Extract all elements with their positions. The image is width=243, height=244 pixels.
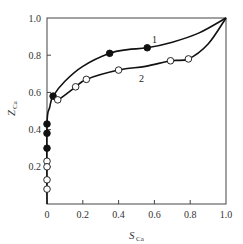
open-marker	[44, 177, 51, 184]
plot-curves	[47, 18, 226, 204]
open-marker	[83, 76, 90, 83]
curve-label-1: 1	[152, 34, 157, 45]
x-tick-label: 0.8	[184, 209, 197, 220]
curve-label-2: 2	[139, 73, 144, 84]
data-markers	[44, 44, 192, 192]
filled-marker	[106, 50, 113, 57]
open-marker	[72, 84, 79, 91]
chart: 00.20.40.60.81.00.20.40.60.81.0 1 2 S Ca…	[0, 0, 243, 244]
open-marker	[44, 186, 51, 193]
x-tick-label: 0	[45, 209, 50, 220]
x-tick-label: 0.4	[112, 209, 125, 220]
y-tick-label: 0.2	[29, 161, 42, 172]
x-tick-label: 1.0	[220, 209, 233, 220]
open-marker	[44, 164, 51, 171]
open-marker	[185, 56, 192, 63]
y-axis-label: Z Ca	[5, 100, 19, 116]
y-tick-label: 0.8	[29, 50, 42, 61]
y-axis-label-main: Z	[5, 109, 17, 116]
x-axis-label-sub: Ca	[136, 235, 145, 243]
y-axis-label-sub: Ca	[11, 100, 19, 109]
filled-marker	[44, 130, 51, 137]
filled-marker	[44, 121, 51, 128]
filled-marker	[144, 44, 151, 51]
x-tick-label: 0.2	[77, 209, 90, 220]
open-marker	[115, 67, 122, 74]
x-tick-label: 0.6	[148, 209, 161, 220]
axis-ticks: 00.20.40.60.81.00.20.40.60.81.0	[29, 13, 233, 221]
x-axis-label-main: S	[129, 229, 135, 241]
open-marker	[167, 57, 174, 64]
filled-marker	[44, 145, 51, 152]
plot-border	[47, 18, 226, 204]
y-tick-label: 0.4	[29, 124, 42, 135]
y-tick-label: 1.0	[29, 13, 42, 24]
open-marker	[54, 97, 61, 104]
curve-1	[47, 18, 226, 204]
x-axis-label: S Ca	[129, 229, 145, 243]
axes-frame	[47, 18, 226, 204]
y-tick-label: 0.6	[29, 87, 42, 98]
